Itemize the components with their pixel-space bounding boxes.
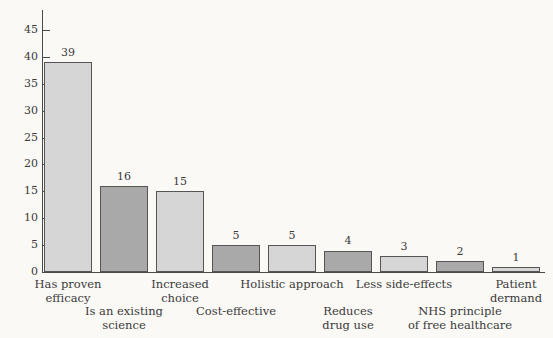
bar	[156, 191, 204, 272]
category-label: Is an existing science	[69, 305, 179, 332]
bar	[100, 186, 148, 272]
bar-value-label: 5	[212, 230, 260, 241]
category-label: Has proven efficacy	[13, 278, 123, 305]
y-axis-tick-label: 30	[0, 105, 38, 116]
bar-value-label: 3	[380, 241, 428, 252]
y-axis-tick	[43, 30, 50, 31]
category-label: Patient dermand	[461, 278, 553, 305]
y-axis-tick-label-text: 30	[12, 105, 38, 116]
y-axis-tick-label-text: 20	[12, 158, 38, 169]
y-axis-tick-label: 5	[0, 239, 38, 250]
bar	[212, 245, 260, 272]
bar-value-label: 4	[324, 235, 372, 246]
bar	[268, 245, 316, 272]
bar-value-label: 5	[268, 230, 316, 241]
y-axis-tick-label-text: 40	[12, 51, 38, 62]
y-axis-tick-label: 25	[0, 132, 38, 143]
category-label: Less side-effects	[349, 278, 459, 292]
y-axis-tick-label-text: 5	[12, 239, 38, 250]
y-axis-tick	[43, 272, 50, 273]
x-axis-line	[42, 272, 545, 273]
bar-value-label: 16	[100, 171, 148, 182]
bar	[324, 251, 372, 273]
y-axis-tick-label-text: 10	[12, 212, 38, 223]
category-label: Holistic approach	[237, 278, 347, 292]
y-axis-tick-label: 15	[0, 185, 38, 196]
y-axis-tick-label-text: 15	[12, 185, 38, 196]
y-axis-tick-label: 10	[0, 212, 38, 223]
bar-chart: 051015202530354045 391615554321 Has prov…	[0, 0, 553, 338]
y-axis-tick-label: 0	[0, 266, 38, 277]
y-axis-line	[42, 10, 43, 273]
category-label: NHS principle of free healthcare	[405, 305, 515, 332]
y-axis-tick-label: 35	[0, 78, 38, 89]
bar-value-label: 2	[436, 246, 484, 257]
category-label: Reduces drug use	[293, 305, 403, 332]
bar	[380, 256, 428, 272]
y-axis-tick-label: 40	[0, 51, 38, 62]
y-axis-tick-label-text: 25	[12, 132, 38, 143]
y-axis-tick-label-text: 35	[12, 78, 38, 89]
y-axis-tick-label-text: 45	[12, 24, 38, 35]
bar-value-label: 39	[44, 47, 92, 58]
y-axis-tick-label-text: 0	[12, 266, 38, 277]
bar	[436, 261, 484, 272]
y-axis-tick-label: 20	[0, 158, 38, 169]
bar	[44, 62, 92, 272]
category-label: Cost-effective	[181, 305, 291, 319]
bar-value-label: 1	[492, 252, 540, 263]
bar-value-label: 15	[156, 176, 204, 187]
category-label: Increased choice	[125, 278, 235, 305]
y-axis-tick-label: 45	[0, 24, 38, 35]
bar	[492, 267, 540, 272]
